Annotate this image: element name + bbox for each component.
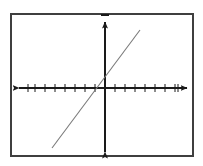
- figure-root: [0, 0, 203, 166]
- coordinate-plane-svg: [0, 0, 203, 166]
